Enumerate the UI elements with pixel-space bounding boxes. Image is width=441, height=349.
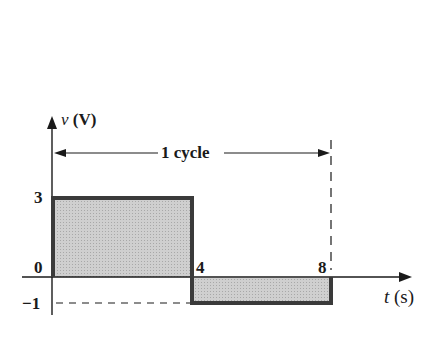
x-axis-label: t (s) xyxy=(384,287,414,306)
y-axis-label: v (V) xyxy=(61,111,96,128)
cycle-arrow-right-icon xyxy=(318,149,330,157)
y-tick-0: 0 xyxy=(34,259,43,276)
positive-pulse-fill xyxy=(53,198,191,277)
y-axis-var: v xyxy=(61,110,69,129)
cycle-arrow-left-icon xyxy=(54,149,66,157)
x-tick-4: 4 xyxy=(196,259,205,276)
y-tick-3: 3 xyxy=(34,189,43,206)
x-tick-8: 8 xyxy=(318,259,327,276)
x-axis-var: t xyxy=(384,286,389,307)
square-wave-diagram xyxy=(0,0,441,349)
negative-pulse-fill xyxy=(192,278,330,303)
cycle-label: 1 cycle xyxy=(161,144,210,161)
y-tick-minus-1: −1 xyxy=(22,295,40,312)
y-axis-unit: (V) xyxy=(73,110,97,129)
x-axis-unit: (s) xyxy=(394,286,414,307)
x-axis-arrow-icon xyxy=(399,272,412,282)
y-axis-arrow-icon xyxy=(47,116,57,129)
